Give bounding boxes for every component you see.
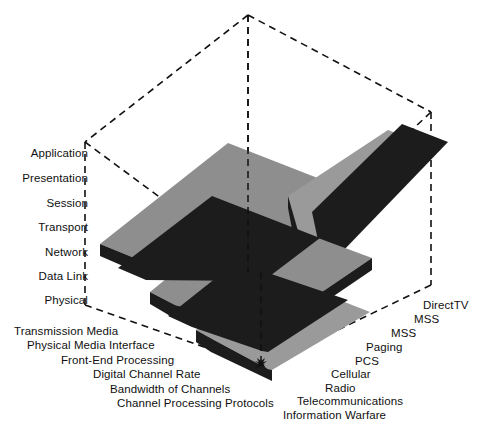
layer-label-transport: Transport — [38, 221, 88, 233]
left-axis-label-physical-media-interface: Physical Media Interface — [27, 339, 155, 351]
left-axis-label-bandwidth-of-channels: Bandwidth of Channels — [110, 383, 230, 395]
layer-label-physical: Physical — [44, 294, 88, 306]
layer-label-network: Network — [45, 246, 88, 258]
right-axis-label-pcs: PCS — [355, 355, 379, 367]
right-axis-label-mss-1: MSS — [414, 313, 439, 325]
wireframe-top-right-back — [248, 15, 431, 112]
layer-label-application: Application — [31, 147, 88, 159]
right-axis-label-directtv: DirectTV — [423, 299, 469, 311]
layer-label-presentation: Presentation — [22, 172, 88, 184]
right-axis-label-radio: Radio — [325, 382, 356, 394]
left-axis-label-digital-channel-rate: Digital Channel Rate — [93, 368, 200, 380]
right-axis-label-mss-2: MSS — [391, 327, 416, 339]
right-axis-label-telecommunications: Telecommunications — [297, 395, 403, 407]
left-axis-label-front-end-processing: Front-End Processing — [61, 354, 174, 366]
right-axis-label-paging: Paging — [366, 341, 402, 353]
layer-label-data-link: Data Link — [39, 270, 88, 282]
left-axis-label-channel-processing-protocols: Channel Processing Protocols — [117, 397, 274, 409]
left-axis-label-transmission-media: Transmission Media — [14, 325, 118, 337]
right-axis-label-information-warfare: Information Warfare — [283, 409, 386, 421]
layer-label-session: Session — [46, 197, 88, 209]
right-axis-label-cellular: Cellular — [331, 368, 371, 380]
wireframe-top-left-back — [85, 15, 248, 142]
three-d-layer-diagram — [0, 0, 486, 434]
diagram-canvas: Application Presentation Session Transpo… — [0, 0, 486, 434]
